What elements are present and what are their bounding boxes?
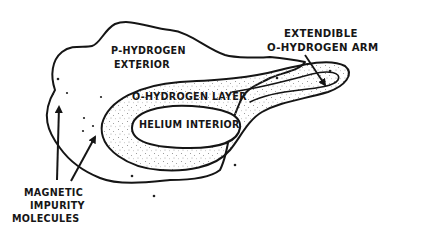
arm-callout-line1: EXTENDIBLE <box>284 28 358 39</box>
impurity-callout-line1: MAGNETIC <box>24 187 83 198</box>
impurity-dot <box>153 195 156 198</box>
impurity-dot <box>100 96 102 98</box>
impurity-dot <box>83 117 85 119</box>
helium-interior-label: HELIUM INTERIOR <box>139 119 240 130</box>
droplet-structure-diagram: P-HYDROGEN EXTERIOR O-HYDROGEN LAYER HEL… <box>0 0 421 231</box>
impurity-dot <box>57 78 60 81</box>
impurity-dot <box>52 93 54 95</box>
impurity-dot <box>276 77 279 80</box>
impurity-callout-line3: MOLECULES <box>12 213 79 224</box>
exterior-label-line1: P-HYDROGEN <box>111 45 186 56</box>
impurity-arrow-left <box>57 107 59 180</box>
impurity-dot <box>66 92 68 94</box>
impurity-dot <box>234 164 237 167</box>
impurity-dot <box>82 130 84 132</box>
arm-callout-line2: O-HYDROGEN ARM <box>267 42 378 53</box>
o-hydrogen-layer-label: O-HYDROGEN LAYER <box>132 91 247 102</box>
exterior-label-line2: EXTERIOR <box>114 59 170 70</box>
impurity-callout-line2: IMPURITY <box>30 200 86 211</box>
impurity-dot <box>329 70 332 73</box>
impurity-dot <box>92 125 94 127</box>
impurity-dot <box>131 175 134 178</box>
